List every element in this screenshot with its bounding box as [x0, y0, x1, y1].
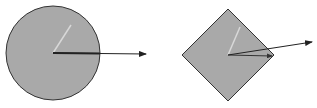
circle-figure — [6, 6, 146, 100]
diagram-canvas — [0, 0, 317, 108]
diamond-figure — [182, 9, 312, 101]
